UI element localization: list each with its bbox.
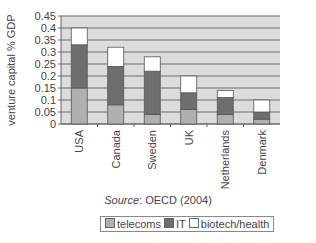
y-tick-label: 0.2: [41, 70, 56, 82]
bar-segment: [181, 93, 197, 110]
bar-segment: [217, 90, 233, 97]
stacked-bar-chart: 00.050.10.150.20.250.30.350.40.45venture…: [0, 0, 316, 243]
source-text: : OECD (2004): [139, 194, 212, 206]
legend-item-telecoms: telecoms: [105, 218, 161, 230]
legend-swatch-it: [164, 218, 174, 228]
bar-segment: [254, 119, 270, 124]
bar-segment: [181, 110, 197, 124]
legend-item-biotech: biotech/health: [189, 218, 270, 230]
bar-segment: [108, 47, 124, 66]
source-caption: Source: OECD (2004): [0, 194, 316, 206]
bar-segment: [71, 28, 87, 45]
y-tick-label: 0.1: [41, 94, 56, 106]
bar-segment: [217, 98, 233, 115]
x-category-label: USA: [73, 129, 85, 152]
bar-segment: [144, 71, 160, 114]
plot-area: 00.050.10.150.20.250.30.350.40.45venture…: [5, 10, 280, 189]
bar-segment: [108, 66, 124, 104]
y-tick-label: 0: [50, 118, 56, 130]
x-category-label: Sweden: [146, 130, 158, 170]
y-tick-label: 0.4: [41, 22, 56, 34]
y-tick-label: 0.15: [35, 82, 56, 94]
legend-item-it: IT: [164, 218, 186, 230]
x-category-label: UK: [183, 129, 195, 145]
source-label: Source: [104, 194, 139, 206]
y-tick-label: 0.35: [35, 34, 56, 46]
bar-segment: [254, 112, 270, 119]
legend: telecoms IT biotech/health: [100, 216, 274, 232]
legend-swatch-telecoms: [105, 218, 115, 228]
legend-swatch-biotech: [189, 218, 199, 228]
y-tick-label: 0.05: [35, 106, 56, 118]
plot-background: [61, 16, 280, 124]
y-tick-label: 0.45: [35, 10, 56, 22]
bar-segment: [181, 76, 197, 93]
y-tick-label: 0.3: [41, 46, 56, 58]
bar-segment: [108, 105, 124, 124]
bar-segment: [254, 100, 270, 112]
bar-segment: [71, 45, 87, 88]
y-tick-label: 0.25: [35, 58, 56, 70]
bar-segment: [217, 114, 233, 124]
x-category-label: Netherlands: [219, 130, 231, 190]
bar-segment: [144, 57, 160, 71]
x-category-label: Canada: [110, 129, 122, 168]
y-axis-label: venture capital % GDP: [5, 14, 17, 125]
bar-segment: [144, 114, 160, 124]
bar-segment: [71, 88, 87, 124]
x-category-label: Denmark: [256, 130, 268, 175]
